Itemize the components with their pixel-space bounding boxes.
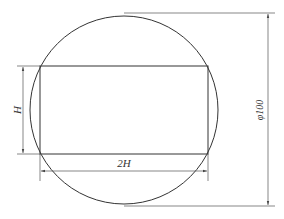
diameter-dimension [124, 13, 275, 206]
inscribed-rectangle [40, 66, 208, 154]
height-label: H [11, 105, 23, 115]
diagram-canvas: H 2H φ100 [0, 0, 284, 219]
diagram-svg: H 2H φ100 [0, 0, 284, 219]
width-label: 2H [117, 157, 132, 169]
circle-shape [30, 16, 218, 204]
diameter-label: φ100 [254, 100, 265, 121]
